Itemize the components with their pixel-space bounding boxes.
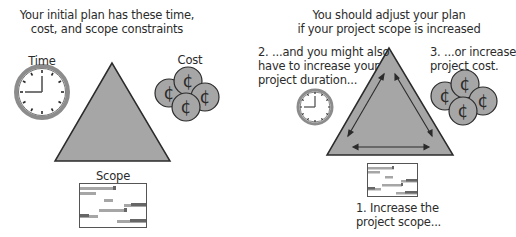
coin-symbol: ¢ xyxy=(478,91,489,111)
step2-line3: project duration... xyxy=(258,73,357,87)
step1-line1: 1. Increase the xyxy=(356,201,439,215)
coin-symbol: ¢ xyxy=(164,83,175,103)
right-title-line1: You should adjust your plan xyxy=(289,8,489,22)
step2-line1: 2. ...and you might also xyxy=(258,45,389,59)
step3-line1: 3. ...or increase xyxy=(430,45,516,59)
coin-symbol: ¢ xyxy=(183,71,194,91)
clock-icon xyxy=(298,90,332,124)
left-title-line1: Your initial plan has these time, xyxy=(17,8,197,22)
coin-symbol: ¢ xyxy=(440,86,451,106)
coin-symbol: ¢ xyxy=(460,74,471,94)
coin-symbol: ¢ xyxy=(458,101,469,121)
step3-line2: project cost. xyxy=(430,59,498,73)
coin-symbol: ¢ xyxy=(181,97,192,117)
step2-line2: have to increase your xyxy=(258,59,379,73)
scope-gantt-icon xyxy=(80,184,147,228)
left-title-line2: cost, and scope constraints xyxy=(17,22,197,36)
clock-icon xyxy=(16,66,68,118)
cost-label: Cost xyxy=(170,53,210,67)
time-label: Time xyxy=(22,54,62,68)
right-title-line2: if your project scope is increased xyxy=(289,22,489,36)
step1-line2: project scope... xyxy=(356,215,441,229)
coin-symbol: ¢ xyxy=(200,87,211,107)
scope-label: Scope xyxy=(88,169,138,183)
constraint-triangle xyxy=(55,63,170,161)
scope-gantt-icon xyxy=(368,164,418,197)
